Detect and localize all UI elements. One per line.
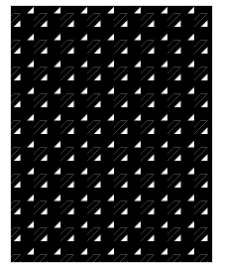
- houndstooth-swatch: [10, 5, 213, 263]
- houndstooth-pattern: [11, 6, 212, 262]
